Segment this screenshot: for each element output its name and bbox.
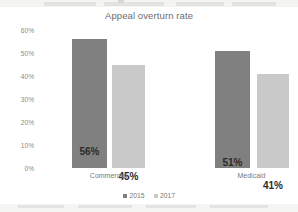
plot-area: 56% 45% 51% 41%	[38, 30, 294, 168]
legend-swatch-icon-2015	[123, 194, 127, 198]
legend-label-2015: 2015	[129, 192, 144, 199]
scan-speck	[146, 205, 196, 208]
scan-speck	[232, 2, 276, 6]
legend-swatch-icon-2017	[154, 194, 158, 198]
legend-label-2017: 2017	[160, 192, 175, 199]
scan-speck	[176, 2, 224, 6]
chart-legend: 2015 2017	[0, 192, 298, 199]
data-label-medicaid-2017: 41%	[257, 180, 289, 191]
y-axis-tick-50: 50%	[0, 50, 34, 57]
bar-medicaid-2017[interactable]	[257, 74, 289, 168]
x-axis-label-commercial: Commercial	[72, 172, 145, 179]
scan-speck	[210, 205, 268, 208]
y-axis: 60% 50% 40% 30% 20% 10% 0%	[0, 30, 34, 168]
scan-artifact-bottom	[0, 204, 298, 212]
scan-speck	[118, 0, 124, 3]
scan-speck	[104, 2, 164, 6]
scan-speck	[44, 2, 96, 6]
bar-commercial-2017[interactable]	[112, 65, 145, 169]
y-axis-tick-0: 0%	[0, 165, 34, 172]
chart-title: Appeal overturn rate	[0, 10, 298, 21]
bar-medicaid-2015[interactable]	[215, 51, 250, 168]
scan-speck	[18, 205, 64, 208]
legend-item-2017[interactable]: 2017	[154, 192, 176, 199]
y-axis-tick-10: 10%	[0, 142, 34, 149]
data-label-medicaid-2015: 51%	[215, 157, 250, 168]
bar-chart: Appeal overturn rate 60% 50% 40% 30% 20%…	[0, 0, 298, 212]
x-axis-label-medicaid: Medicaid	[215, 172, 288, 179]
data-label-commercial-2015: 56%	[72, 146, 107, 157]
y-axis-tick-20: 20%	[0, 119, 34, 126]
y-axis-tick-40: 40%	[0, 73, 34, 80]
y-axis-tick-30: 30%	[0, 96, 34, 103]
legend-item-2015[interactable]: 2015	[123, 192, 145, 199]
scan-speck	[78, 205, 132, 208]
scan-artifact-top	[0, 0, 298, 7]
y-axis-tick-60: 60%	[0, 27, 34, 34]
